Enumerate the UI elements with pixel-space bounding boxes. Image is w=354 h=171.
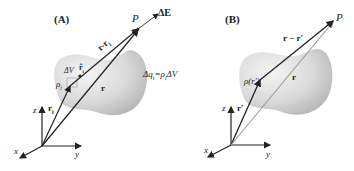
point-p-label: P bbox=[132, 13, 139, 24]
x-axis-arrow bbox=[208, 145, 231, 157]
x-axis-label: x bbox=[204, 146, 208, 155]
y-axis-label: y bbox=[266, 150, 270, 159]
charge-equation: Δqi=ρiΔV bbox=[143, 70, 177, 81]
point-p bbox=[137, 28, 140, 31]
ri-vector bbox=[42, 86, 70, 146]
x-axis-arrow bbox=[20, 146, 42, 158]
point-p-label: P bbox=[336, 12, 343, 23]
z-axis-label: z bbox=[222, 104, 226, 113]
rho-i-label: ρi bbox=[56, 80, 62, 91]
r-label: r bbox=[292, 73, 296, 82]
ri-label: ri bbox=[48, 104, 54, 115]
delta-e-label: ΔE bbox=[158, 8, 171, 18]
r-prime-label: r′ bbox=[237, 104, 244, 113]
r-label: r bbox=[101, 84, 105, 93]
unit-vector-label: r̂i bbox=[79, 64, 84, 74]
unit-vector-dot bbox=[78, 74, 81, 77]
x-axis-label: x bbox=[14, 147, 18, 156]
delta-e-arrow bbox=[138, 14, 158, 29]
delta-v-label: ΔV bbox=[64, 67, 74, 75]
panel-a-label: (A) bbox=[54, 14, 69, 25]
rho-r-prime-label: ρ(r′) bbox=[244, 77, 260, 86]
volume-element bbox=[67, 78, 77, 87]
z-axis-label: z bbox=[33, 106, 37, 115]
panel-b bbox=[208, 21, 333, 157]
r-minus-r-prime-label: r − r′ bbox=[283, 34, 303, 43]
diagram-canvas bbox=[0, 0, 354, 171]
y-axis-label: y bbox=[75, 150, 79, 159]
panel-b-label: (B) bbox=[225, 14, 240, 25]
panel-a bbox=[20, 14, 158, 158]
